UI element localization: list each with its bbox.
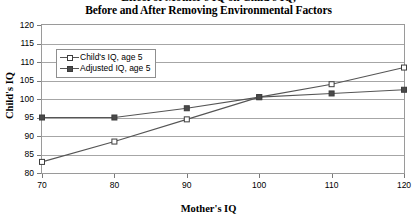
data-point-marker xyxy=(112,115,117,120)
x-axis-tick-mark xyxy=(187,174,188,178)
x-axis-tick-mark xyxy=(114,174,115,178)
x-axis-tick-mark xyxy=(404,174,405,178)
legend-item-childs-iq[interactable]: Child's IQ, age 5 xyxy=(60,52,150,63)
data-point-marker xyxy=(184,117,189,122)
y-axis-tick-label: 80 xyxy=(8,169,34,178)
series-line xyxy=(42,90,404,118)
x-axis-title: Mother's IQ xyxy=(0,203,417,214)
x-axis-tick-mark xyxy=(42,174,43,178)
data-point-marker xyxy=(329,82,334,87)
data-point-marker xyxy=(184,106,189,111)
y-axis-tick-label: 85 xyxy=(8,150,34,159)
legend-item-label: Adjusted IQ, age 5 xyxy=(79,64,150,73)
y-axis-tick-label: 95 xyxy=(8,113,34,122)
y-axis-tick-label: 105 xyxy=(8,76,34,85)
data-point-marker xyxy=(402,65,407,70)
data-point-marker xyxy=(40,115,45,120)
x-axis-tick-label: 120 xyxy=(389,181,417,190)
chart-container: Effect of Mother's IQ on Child's IQ, Bef… xyxy=(0,0,417,219)
filled-square-marker-icon xyxy=(60,63,79,74)
data-point-marker xyxy=(257,95,262,100)
chart-title-line-2: Before and After Removing Environmental … xyxy=(0,4,417,17)
series-layer xyxy=(42,25,404,173)
data-point-marker xyxy=(112,139,117,144)
chart-title: Effect of Mother's IQ on Child's IQ, Bef… xyxy=(0,0,417,16)
legend-item-label: Child's IQ, age 5 xyxy=(79,53,143,62)
plot-inner xyxy=(42,25,404,173)
x-axis-tick-mark xyxy=(332,174,333,178)
y-axis-tick-label: 115 xyxy=(8,39,34,48)
y-axis-tick-label: 100 xyxy=(8,95,34,104)
y-axis-tick-label: 110 xyxy=(8,58,34,67)
x-axis-tick-label: 110 xyxy=(317,181,347,190)
x-axis-tick-label: 90 xyxy=(172,181,202,190)
legend-item-adjusted-iq[interactable]: Adjusted IQ, age 5 xyxy=(60,63,150,74)
y-axis-tick-label: 90 xyxy=(8,132,34,141)
data-point-marker xyxy=(329,91,334,96)
x-axis-tick-label: 80 xyxy=(99,181,129,190)
chart-legend: Child's IQ, age 5 Adjusted IQ, age 5 xyxy=(56,49,156,78)
y-axis-tick-label: 120 xyxy=(8,21,34,30)
data-point-marker xyxy=(402,87,407,92)
series-2 xyxy=(40,87,407,120)
open-square-marker-icon xyxy=(60,52,79,63)
x-axis-tick-mark xyxy=(259,174,260,178)
data-point-marker xyxy=(40,159,45,164)
series-1 xyxy=(40,65,407,164)
series-line xyxy=(42,68,404,162)
x-axis-tick-label: 70 xyxy=(27,181,57,190)
x-axis-tick-label: 100 xyxy=(244,181,274,190)
plot-area xyxy=(41,24,405,174)
